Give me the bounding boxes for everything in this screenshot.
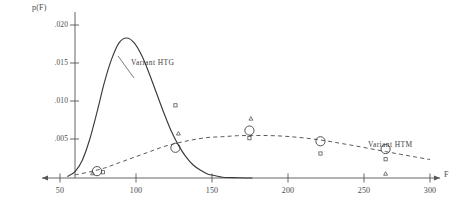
marker-circle <box>171 143 180 152</box>
series-label-htg: Variant HTG <box>131 58 174 67</box>
marker-circle <box>92 167 101 176</box>
y-tick-label-020: .020 <box>34 20 68 29</box>
marker-square <box>319 152 322 155</box>
marker-triangle <box>384 172 388 176</box>
x-tick-label-150: 150 <box>196 186 228 195</box>
x-axis-arrow <box>434 175 440 180</box>
marker-triangle <box>176 132 180 136</box>
y-tick-label-005: .005 <box>34 134 68 143</box>
series-label-htm: Variant HTM <box>368 140 413 149</box>
marker-triangle <box>249 117 253 121</box>
marker-square <box>174 104 177 107</box>
x-tick-label-200: 200 <box>272 186 304 195</box>
x-tick-label-100: 100 <box>120 186 152 195</box>
y-tick-label-015: .015 <box>34 58 68 67</box>
marker-square <box>248 137 251 140</box>
x-axis-label: F <box>444 170 449 179</box>
x-axis-left-arrow <box>42 175 48 180</box>
axes-group <box>42 12 440 181</box>
plot-area <box>0 0 457 204</box>
x-tick-label-250: 250 <box>348 186 380 195</box>
chart-container: .020 .015 .010 .005 p(F) 50 100 150 200 … <box>0 0 457 204</box>
x-tick-label-50: 50 <box>44 186 76 195</box>
y-tick-label-010: .010 <box>34 96 68 105</box>
x-tick-label-300: 300 <box>414 186 446 195</box>
y-ticks <box>70 25 79 139</box>
marker-circle <box>245 126 254 135</box>
marker-circle <box>316 137 325 146</box>
y-axis-label: p(F) <box>32 3 47 12</box>
data-markers <box>91 104 391 176</box>
marker-square <box>384 158 387 161</box>
